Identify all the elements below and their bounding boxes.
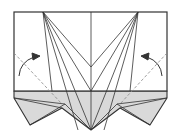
white-paper-body xyxy=(14,12,167,91)
origami-diagram xyxy=(0,0,178,137)
gray-bottom-flaps xyxy=(14,91,167,130)
